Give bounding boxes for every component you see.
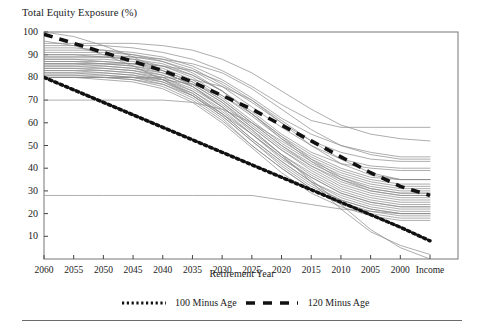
y-tick-label: 100	[8, 27, 38, 37]
bottom-divider	[22, 320, 462, 321]
y-tick-label: 30	[8, 186, 38, 196]
x-tick-label: 2060	[35, 265, 54, 275]
x-tick-label: 2010	[331, 265, 350, 275]
x-tick-label: 2055	[64, 265, 83, 275]
x-tick-label: 2045	[124, 265, 143, 275]
y-tick-label: 50	[8, 141, 38, 151]
x-tick-label: 2025	[242, 265, 261, 275]
x-tick-label: Income	[416, 265, 445, 275]
y-tick-label: 20	[8, 209, 38, 219]
legend-label-100-minus-age: 100 Minus Age	[175, 297, 237, 308]
legend-label-120-minus-age: 120 Minus Age	[308, 297, 370, 308]
x-tick-label: 2035	[183, 265, 202, 275]
y-tick-label: 90	[8, 50, 38, 60]
x-tick-label: 2015	[302, 265, 321, 275]
chart-figure: Total Equity Exposure (%) Retirement Yea…	[0, 0, 484, 330]
y-tick-label: 70	[8, 95, 38, 105]
chart-plot-area	[0, 0, 484, 330]
x-tick-label: 2005	[361, 265, 380, 275]
y-tick-label: 40	[8, 163, 38, 173]
y-tick-label: 10	[8, 231, 38, 241]
chart-legend: 100 Minus Age 120 Minus Age	[0, 296, 484, 308]
x-tick-label: 2020	[272, 265, 291, 275]
x-tick-label: 2050	[94, 265, 113, 275]
legend-swatch-dashed	[245, 299, 299, 307]
x-tick-label: 2030	[213, 265, 232, 275]
y-tick-label: 80	[8, 72, 38, 82]
legend-swatch-dotted	[121, 299, 167, 307]
y-axis-title: Total Equity Exposure (%)	[22, 7, 137, 18]
y-tick-label: 60	[8, 118, 38, 128]
x-tick-label: 2040	[153, 265, 172, 275]
x-tick-label: 2000	[391, 265, 410, 275]
